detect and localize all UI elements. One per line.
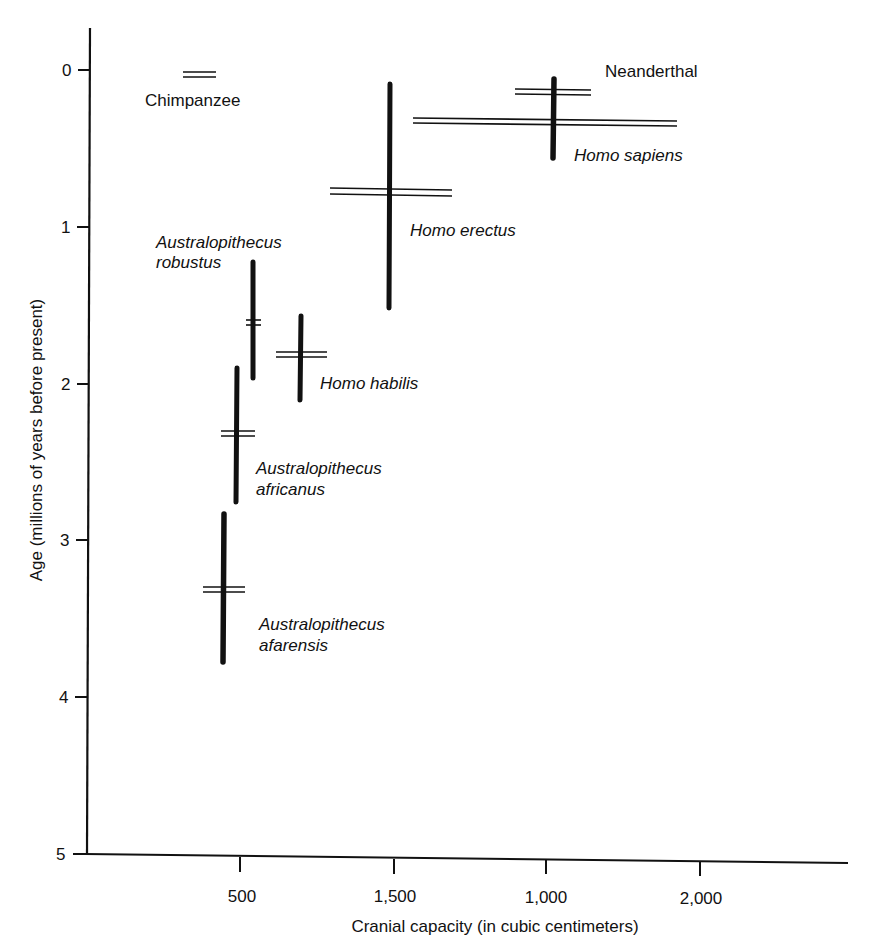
cranial-capacity-chart: 0 1 2 3 4 5 500 1,500 1,000 2,000 Crania… [0,0,872,952]
label-afarensis-line2: afarensis [259,636,328,655]
x-tick-2000: 2,000 [680,889,723,908]
x-tick-1500: 1,000 [525,888,568,907]
y-tick-3: 3 [60,531,69,550]
y-tick-labels: 0 1 2 3 4 5 [56,61,71,864]
series-australopithecus-africanus [221,368,255,502]
label-homo-sapiens: Homo sapiens [574,146,683,165]
x-axis-title: Cranial capacity (in cubic centimeters) [351,917,638,936]
label-homo-erectus: Homo erectus [410,221,516,240]
y-tick-2: 2 [61,375,70,394]
label-africanus-line1: Australopithecus [255,459,382,478]
series-chimpanzee [183,72,216,77]
x-tick-1000: 1,500 [374,887,417,906]
y-tick-0: 0 [62,61,71,80]
series-australopithecus-afarensis [203,514,245,662]
y-tick-1: 1 [61,218,70,237]
x-tick-labels: 500 1,500 1,000 2,000 [228,887,722,908]
label-neanderthal: Neanderthal [605,62,698,81]
series-australopithecus-robustus [246,262,261,378]
label-homo-habilis: Homo habilis [320,374,419,393]
label-chimpanzee: Chimpanzee [145,91,240,110]
x-axis [85,854,848,863]
y-tick-4: 4 [59,688,68,707]
label-africanus-line2: africanus [256,480,325,499]
label-afarensis-line1: Australopithecus [258,615,385,634]
label-robustus-line2: robustus [156,253,222,272]
y-tick-5: 5 [56,845,65,864]
y-axis [87,28,90,854]
x-tick-500: 500 [228,887,256,906]
y-axis-title: Age (millions of years before present) [27,299,46,582]
label-robustus-line1: Australopithecus [155,233,282,252]
